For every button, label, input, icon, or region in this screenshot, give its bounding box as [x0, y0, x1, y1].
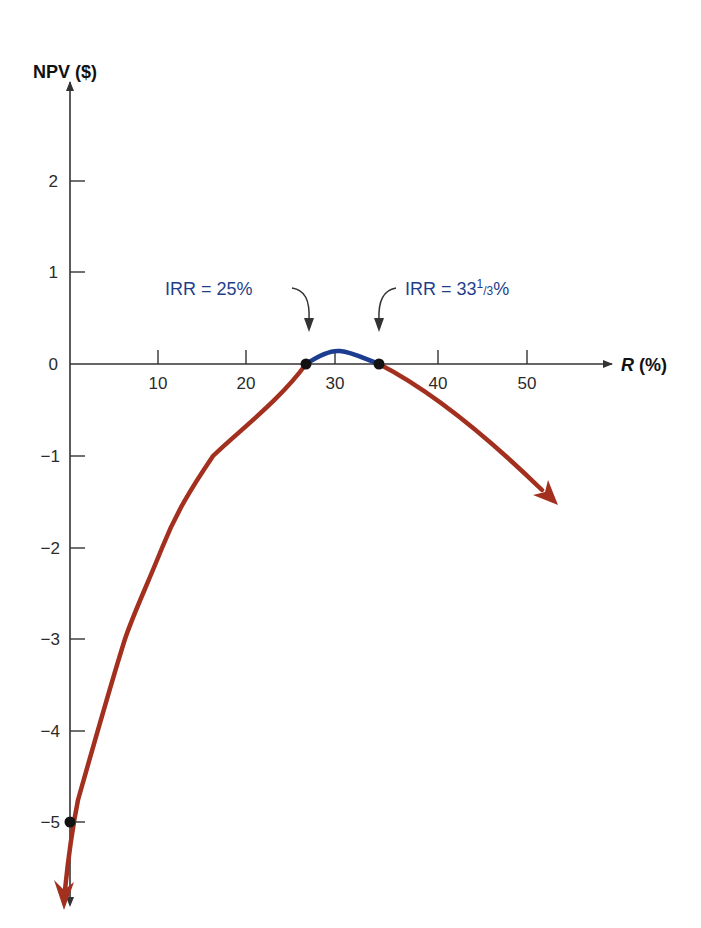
y-tick-label: 2 [49, 172, 58, 191]
irr-25-point [301, 359, 312, 370]
irr-33-point [374, 359, 385, 370]
x-tick-label: 20 [237, 374, 256, 393]
y-axis [66, 82, 74, 907]
irr-33-label: IRR = 331/3% [405, 277, 509, 299]
y-ticks [70, 181, 85, 822]
y-tick-label: −2 [41, 539, 60, 558]
npv-curve-positive [306, 351, 379, 364]
y-tick-label: −3 [41, 630, 60, 649]
x-tick-label: 40 [429, 374, 448, 393]
y-tick-label: 1 [49, 263, 58, 282]
x-axis-title-rest: (%) [634, 355, 667, 375]
npv-profile-chart: NPV ($) R (%) 2 1 0 −1 −2 −3 −4 −5 10 20… [0, 0, 701, 928]
irr-25-label: IRR = 25% [165, 279, 253, 299]
x-tick-label: 30 [326, 374, 345, 393]
npv-at-zero-point [65, 817, 76, 828]
x-axis-title-italic: R [621, 355, 634, 375]
y-tick-label: −4 [41, 722, 60, 741]
irr-25-pointer-arrow-icon [292, 288, 309, 320]
x-axis-title: R (%) [621, 355, 667, 375]
npv-curve-negative-left [54, 364, 306, 910]
y-tick-label: 0 [49, 355, 58, 374]
x-tick-label: 10 [149, 374, 168, 393]
y-tick-label: −5 [41, 813, 60, 832]
y-axis-title: NPV ($) [33, 62, 97, 82]
y-tick-label: −1 [41, 447, 60, 466]
x-tick-label: 50 [518, 374, 537, 393]
irr-33-pointer-arrow-icon [379, 288, 396, 320]
